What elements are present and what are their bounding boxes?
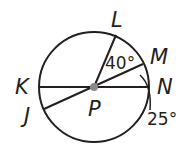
label-P: P bbox=[88, 97, 101, 121]
circle-diagram: L M N K J P 40° 25° bbox=[0, 0, 187, 152]
angle-label-25: 25° bbox=[147, 109, 177, 129]
label-M: M bbox=[150, 45, 168, 69]
label-N: N bbox=[157, 75, 173, 99]
angle-label-40: 40° bbox=[105, 53, 135, 73]
center-point bbox=[90, 83, 98, 91]
label-J: J bbox=[20, 104, 30, 128]
label-K: K bbox=[15, 75, 31, 99]
label-L: L bbox=[111, 8, 123, 32]
